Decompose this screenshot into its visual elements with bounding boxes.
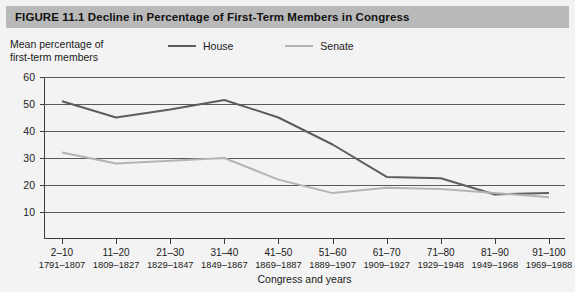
x-tick-years: 1949–1968 [472, 259, 519, 271]
y-tick-label: 40 [23, 125, 35, 137]
x-tick-mark [62, 239, 63, 244]
x-tick-congress: 71–80 [417, 247, 464, 259]
x-tick-mark [387, 239, 388, 244]
x-tick-years: 1849–1867 [201, 259, 248, 271]
y-tick-label: 50 [23, 98, 35, 110]
legend-entry-house: House [168, 40, 233, 52]
x-tick-group: 2–101791–1807 [39, 247, 86, 271]
x-tick-congress: 61–70 [363, 247, 410, 259]
plot-area: 605040302010 2–101791–180711–201809–1827… [44, 77, 565, 239]
x-tick-mark [441, 239, 442, 244]
x-tick-congress: 81–90 [472, 247, 519, 259]
x-axis-ticks [44, 239, 565, 244]
x-tick-years: 1889–1907 [309, 259, 356, 271]
legend-label: House [203, 40, 233, 52]
x-tick-years: 1929–1948 [417, 259, 464, 271]
x-tick-mark [549, 239, 550, 244]
x-tick-congress: 2–10 [39, 247, 86, 259]
legend-label: Senate [320, 40, 353, 52]
series-line-senate [62, 153, 549, 198]
y-tick-label: 10 [23, 206, 35, 218]
x-tick-mark [278, 239, 279, 244]
x-tick-years: 1909–1927 [363, 259, 410, 271]
x-tick-group: 51–601889–1907 [309, 247, 356, 271]
legend-line-icon [168, 45, 196, 47]
x-tick-group: 91–1001969–1988 [526, 247, 573, 271]
x-tick-years: 1869–1887 [255, 259, 302, 271]
x-tick-group: 21–301829–1847 [147, 247, 194, 271]
page-title: FIGURE 11.1 Decline in Percentage of Fir… [15, 11, 409, 23]
x-tick-years: 1829–1847 [147, 259, 194, 271]
x-tick-mark [495, 239, 496, 244]
x-tick-group: 81–901949–1968 [472, 247, 519, 271]
x-tick-congress: 11–20 [93, 247, 140, 259]
x-tick-mark [333, 239, 334, 244]
x-tick-years: 1969–1988 [526, 259, 573, 271]
x-tick-years: 1791–1807 [39, 259, 86, 271]
x-axis-title: Congress and years [44, 273, 565, 285]
x-tick-group: 31–401849–1867 [201, 247, 248, 271]
y-tick-label: 30 [23, 152, 35, 164]
x-tick-mark [170, 239, 171, 244]
x-tick-congress: 21–30 [147, 247, 194, 259]
series-line-house [62, 100, 549, 195]
figure-title-banner: FIGURE 11.1 Decline in Percentage of Fir… [6, 6, 569, 28]
y-tick-label: 20 [23, 179, 35, 191]
legend-entry-senate: Senate [285, 40, 353, 52]
y-axis-caption: Mean percentage of first-term members [10, 38, 103, 63]
x-tick-group: 11–201809–1827 [93, 247, 140, 271]
x-tick-mark [116, 239, 117, 244]
x-tick-mark [224, 239, 225, 244]
x-tick-group: 61–701909–1927 [363, 247, 410, 271]
chart-legend: HouseSenate [168, 40, 354, 52]
x-tick-congress: 41–50 [255, 247, 302, 259]
x-tick-congress: 51–60 [309, 247, 356, 259]
x-tick-years: 1809–1827 [93, 259, 140, 271]
series-lines [44, 77, 565, 239]
legend-line-icon [285, 45, 313, 47]
x-tick-group: 71–801929–1948 [417, 247, 464, 271]
y-tick-label: 60 [23, 71, 35, 83]
figure-container: FIGURE 11.1 Decline in Percentage of Fir… [0, 0, 575, 292]
x-tick-congress: 31–40 [201, 247, 248, 259]
x-tick-group: 41–501869–1887 [255, 247, 302, 271]
x-tick-congress: 91–100 [526, 247, 573, 259]
